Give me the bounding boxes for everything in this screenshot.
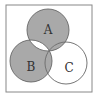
label-c: C	[64, 61, 73, 75]
label-a: A	[43, 23, 53, 37]
label-b: B	[27, 60, 36, 74]
venn-diagram: A B C	[0, 0, 98, 99]
